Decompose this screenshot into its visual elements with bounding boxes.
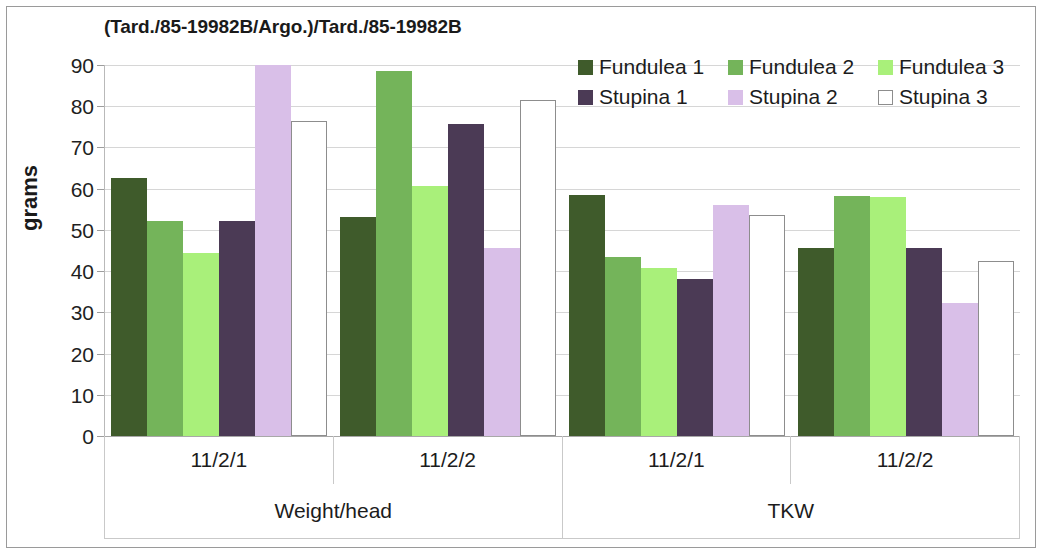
y-axis-tick-mark [97,395,104,396]
y-axis-tick-mark [97,147,104,148]
bar [183,253,219,436]
bar [147,221,183,436]
bar-groups [105,65,1020,436]
y-axis-tick-mark [97,106,104,107]
legend-label: Stupina 3 [899,85,988,109]
legend-item: Stupina 3 [878,85,1028,109]
bar [484,248,520,436]
bar [448,124,484,436]
category-label-level1: 11/2/1 [562,436,791,484]
legend-label: Stupina 2 [749,85,838,109]
bar [713,205,749,436]
bar [291,121,327,436]
y-axis-tick-label: 30 [50,302,94,323]
category-axis: 11/2/111/2/211/2/111/2/2 Weight/headTKW [104,436,1020,538]
legend-label: Fundulea 2 [749,55,854,79]
y-axis-tick-label: 20 [50,343,94,364]
bar [798,248,834,436]
bar [677,279,713,436]
category-label-level2: TKW [562,484,1021,538]
legend-swatch-icon [728,90,743,105]
y-axis-tick-mark [97,230,104,231]
category-label-level2: Weight/head [104,484,562,538]
category-label-level1: 11/2/2 [790,436,1020,484]
chart-legend: Fundulea 1Fundulea 2Fundulea 3Stupina 1S… [578,52,1028,112]
legend-item: Fundulea 3 [878,55,1028,79]
bar [111,178,147,436]
bar-group [791,65,1020,436]
y-axis-tick-mark [97,65,104,66]
category-axis-level1: 11/2/111/2/211/2/111/2/2 [104,436,1020,484]
y-axis-title: grams [17,133,43,263]
y-axis-tick-mark [97,189,104,190]
legend-row: Fundulea 1Fundulea 2Fundulea 3 [578,52,1028,82]
legend-label: Stupina 1 [599,85,688,109]
gridline [105,147,1020,148]
bar [219,221,255,436]
legend-swatch-icon [578,60,593,75]
legend-label: Fundulea 1 [599,55,704,79]
legend-item: Stupina 1 [578,85,728,109]
y-axis-tick-label: 80 [50,96,94,117]
bar [340,217,376,436]
bar [569,195,605,436]
bar [641,268,677,436]
y-axis-tick-labels: 9080706050403020100 [44,65,94,436]
plot-area [104,65,1020,436]
category-axis-bottom-line [104,538,1020,539]
y-axis-tick-label: 50 [50,219,94,240]
bar [870,197,906,436]
legend-swatch-icon [578,90,593,105]
bar-group [563,65,792,436]
category-label-level1: 11/2/2 [333,436,562,484]
bar [376,71,412,436]
y-axis-tick-mark [97,436,104,437]
bar [942,303,978,436]
y-axis-tick-label: 0 [50,426,94,447]
legend-item: Stupina 2 [728,85,878,109]
bar-group [334,65,563,436]
y-axis-tick-label: 60 [50,178,94,199]
category-label-level1: 11/2/1 [104,436,333,484]
y-axis-tick-mark [97,354,104,355]
bar [834,196,870,436]
chart-container: (Tard./85-19982B/Argo.)/Tard./85-19982B … [0,0,1044,556]
bar [605,257,641,436]
legend-item: Fundulea 1 [578,55,728,79]
y-axis-tick-label: 70 [50,137,94,158]
y-axis-tick-label: 40 [50,261,94,282]
bar [412,186,448,436]
category-axis-level2: Weight/headTKW [104,484,1020,538]
bar [978,261,1014,436]
legend-row: Stupina 1Stupina 2Stupina 3 [578,82,1028,112]
chart-title: (Tard./85-19982B/Argo.)/Tard./85-19982B [104,16,462,38]
bar-group [105,65,334,436]
legend-item: Fundulea 2 [728,55,878,79]
gridline [105,189,1020,190]
y-axis-tick-label: 10 [50,384,94,405]
y-axis-tick-mark [97,271,104,272]
legend-swatch-icon [878,90,893,105]
legend-swatch-icon [728,60,743,75]
legend-swatch-icon [878,60,893,75]
y-axis-tick-label: 90 [50,55,94,76]
bar [255,65,291,436]
bar [520,100,556,436]
bar [906,248,942,436]
y-axis-tick-mark [97,312,104,313]
legend-label: Fundulea 3 [899,55,1004,79]
bar [749,215,785,436]
